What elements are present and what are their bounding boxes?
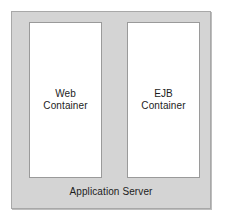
web-container-label-line1: Web — [55, 88, 76, 99]
web-container-label-line2: Container — [43, 100, 87, 112]
diagram-canvas: Web Container EJB Container Application … — [0, 0, 228, 221]
application-server-box[interactable]: Web Container EJB Container Application … — [11, 11, 211, 209]
ejb-container-box[interactable]: EJB Container — [127, 22, 200, 178]
ejb-container-label-line1: EJB — [154, 88, 173, 99]
ejb-container-label-line2: Container — [141, 100, 185, 112]
application-server-label: Application Server — [12, 186, 210, 198]
ejb-container-label: EJB Container — [141, 88, 185, 112]
web-container-label: Web Container — [43, 88, 87, 112]
web-container-box[interactable]: Web Container — [29, 22, 102, 178]
